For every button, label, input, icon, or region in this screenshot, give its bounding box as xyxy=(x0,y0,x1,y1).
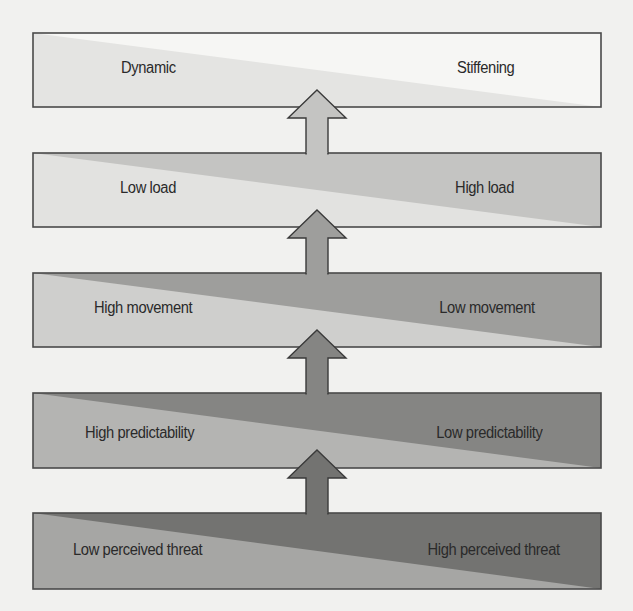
level-1-left-label: Low load xyxy=(120,179,176,197)
level-1-right-label: High load xyxy=(455,179,514,197)
level-2-left-label: High movement xyxy=(94,299,192,317)
level-2-right-label: Low movement xyxy=(440,299,535,317)
level-4-right-label: High perceived threat xyxy=(428,541,560,559)
level-3-right-label: Low predictability xyxy=(437,424,543,442)
level-0-right-label: Stiffening xyxy=(457,59,514,77)
level-3-left-label: High predictability xyxy=(85,424,194,442)
tissue-stiffness-continuum-diagram: Dynamic Stiffening Low load High load Hi… xyxy=(0,0,633,611)
level-4-left-label: Low perceived threat xyxy=(73,541,202,559)
level-0-left-label: Dynamic xyxy=(121,59,176,77)
